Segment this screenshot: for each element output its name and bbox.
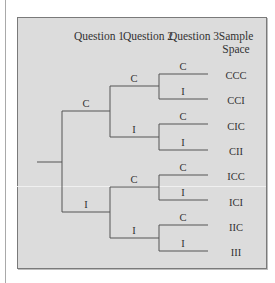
outcome-cic: CIC [227,121,245,132]
label-q2-ci: I [132,124,136,135]
outcome-icc: ICC [227,171,245,182]
outcome-ccc: CCC [225,70,246,81]
outcome-iii: III [231,247,242,258]
label-q2-cc: C [130,73,137,84]
header-question-2: Question 2 [123,30,173,42]
header-sample-space-line1: Sample [219,30,254,43]
label-q3-6: I [181,187,185,198]
outcome-iic: IIC [229,222,243,233]
label-q3-2: I [181,86,185,97]
tree-diagram: Question 1 Question 2 Question 3 Sample … [0,0,275,283]
label-q2-ii: I [132,225,136,236]
label-q3-8: I [181,238,185,249]
label-q3-7: C [179,212,186,223]
label-q3-3: C [179,111,186,122]
label-q3-1: C [179,61,186,72]
outcome-cci: CCI [227,95,245,106]
label-q2-ic: C [130,174,137,185]
header-question-1: Question 1 [74,30,124,42]
label-q3-4: I [181,137,185,148]
outcome-ici: ICI [229,197,244,208]
label-q1-i: I [84,199,88,210]
outcome-cii: CII [229,146,244,157]
label-q1-c: C [82,98,89,109]
header-sample-space-line2: Space [222,43,249,56]
header-question-3: Question 3 [169,30,219,42]
label-q3-5: C [179,162,186,173]
